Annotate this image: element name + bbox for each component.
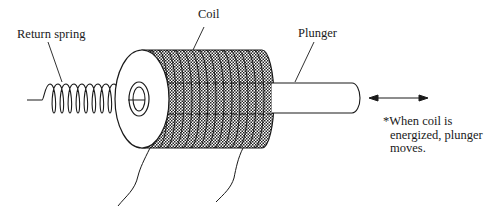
double-arrow-icon [369, 95, 428, 101]
coil-wire-leads [118, 148, 243, 206]
note-line-1: *When coil is [383, 115, 483, 129]
coil-front-face [115, 50, 169, 148]
return-spring-label: Return spring [17, 27, 85, 41]
coil-label: Coil [198, 7, 220, 21]
plunger [272, 83, 360, 113]
note-line-3: moves. [383, 142, 483, 156]
plunger-label: Plunger [298, 26, 337, 40]
note-line-2: energized, plunger [383, 129, 483, 143]
energized-note: *When coil is energized, plunger moves. [383, 115, 483, 156]
